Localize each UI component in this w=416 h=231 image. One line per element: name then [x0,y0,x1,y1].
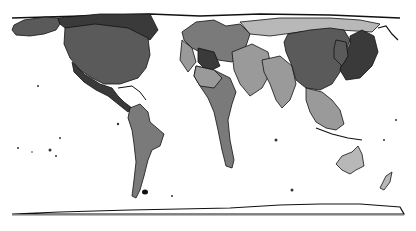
region-caribbean [118,86,146,100]
region-new-zealand [380,172,392,190]
region-south-america [128,104,164,198]
region-indonesia [316,128,362,140]
region-australia [336,146,364,174]
falklands-icon [142,190,148,195]
region-southeast-asia [306,88,344,130]
map-canvas [0,0,416,231]
world-cartogram [0,0,416,231]
region-antarctica [12,204,404,214]
pacific-islands [17,85,397,197]
region-kamchatka [378,26,398,40]
region-alaska [12,17,60,36]
